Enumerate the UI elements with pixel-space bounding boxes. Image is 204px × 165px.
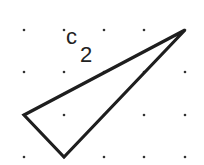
grid-dot xyxy=(23,29,26,32)
triangle-label: c xyxy=(66,26,77,48)
grid-dot xyxy=(103,29,106,32)
grid-dot xyxy=(23,71,26,74)
grid-dot xyxy=(143,29,146,32)
grid-dot xyxy=(63,71,66,74)
triangle-c2 xyxy=(24,30,185,157)
grid-dot xyxy=(184,114,187,117)
dot-grid-diagram xyxy=(0,0,204,165)
grid-dot xyxy=(103,156,106,159)
grid-dot xyxy=(184,71,187,74)
grid-dot xyxy=(23,156,26,159)
grid-dot xyxy=(143,156,146,159)
grid-dot xyxy=(63,114,66,117)
grid-dot xyxy=(184,156,187,159)
grid-dot xyxy=(143,114,146,117)
triangle-label-subscript: 2 xyxy=(80,44,92,66)
grid-dot xyxy=(63,29,66,32)
